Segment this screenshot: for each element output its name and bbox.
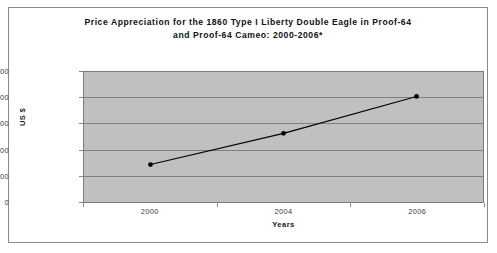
x-tick-label-2006: 2006	[387, 207, 447, 216]
series-line-chart	[84, 72, 483, 202]
y-tick-label-50000: 50,000	[0, 171, 9, 180]
chart-title-line-2: and Proof-64 Cameo: 2000-2006*	[9, 29, 487, 42]
y-tick-label-250000: 250,000	[0, 67, 9, 76]
x-tick-label-2004: 2004	[254, 207, 314, 216]
y-tick-label-0: 0	[0, 198, 9, 207]
x-tick-mark-2	[350, 203, 351, 207]
chart-title: Price Appreciation for the 1860 Type I L…	[9, 16, 487, 42]
x-axis-title: Years	[83, 220, 484, 229]
x-tick-mark-1	[217, 203, 218, 207]
x-tick-mark-left-edge	[83, 203, 84, 207]
data-point-2004	[281, 131, 286, 136]
y-axis-title: US $	[18, 108, 27, 126]
plot-area	[83, 71, 484, 203]
data-point-2000	[148, 162, 153, 167]
y-tick-label-100000: 100,000	[0, 145, 9, 154]
y-tick-label-150000: 150,000	[0, 119, 9, 128]
data-point-2006	[414, 94, 419, 99]
x-tick-mark-right-edge	[484, 203, 485, 207]
chart-container: Price Appreciation for the 1860 Type I L…	[8, 7, 488, 243]
x-tick-label-2000: 2000	[120, 207, 180, 216]
chart-title-line-1: Price Appreciation for the 1860 Type I L…	[9, 16, 487, 29]
y-tick-label-200000: 200,000	[0, 93, 9, 102]
series-line-path	[150, 96, 416, 164]
